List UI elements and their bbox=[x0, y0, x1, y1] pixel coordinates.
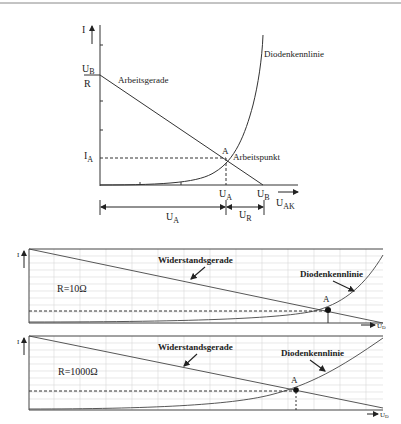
ub-tick-label: UB bbox=[257, 188, 270, 202]
diode-curve-pointer-arrow bbox=[333, 281, 354, 291]
r-label: R bbox=[84, 78, 91, 89]
y-axis-label: I bbox=[17, 338, 20, 346]
resistance-label: R=10Ω bbox=[57, 283, 87, 294]
x-axis-label: UD bbox=[380, 411, 389, 419]
load-line-label: Widerstandsgerade bbox=[158, 255, 233, 265]
operating-point-letter: A bbox=[222, 146, 229, 156]
ur-span-label: UR bbox=[239, 209, 252, 223]
ub-label: UB bbox=[82, 63, 95, 76]
diode-curve-label: Diodenkennlinie bbox=[281, 348, 344, 358]
load-line-label: Widerstandsgerade bbox=[158, 342, 233, 352]
panel-r1000: I Widerstandsgerade Diodenkennlinie A R=… bbox=[17, 336, 389, 419]
operating-point-letter: A bbox=[323, 294, 330, 304]
diode-curve bbox=[100, 35, 263, 185]
y-axis-label: I bbox=[82, 24, 85, 35]
x-axis-label: UD bbox=[377, 322, 386, 330]
y-axis-label: I bbox=[17, 251, 20, 259]
top-diagram: I UB R IA Arbeitsgerade Diodenkennlinie … bbox=[82, 24, 324, 225]
diode-curve-label: Diodenkennlinie bbox=[300, 269, 363, 279]
resistance-label: R=1000Ω bbox=[58, 366, 98, 377]
ua-span-label: UA bbox=[166, 211, 179, 225]
diode-curve-pointer-arrow bbox=[310, 360, 325, 371]
x-axis-label: UAK bbox=[276, 197, 295, 211]
diode-operating-point-figure: I UB R IA Arbeitsgerade Diodenkennlinie … bbox=[0, 0, 401, 424]
operating-point-letter: A bbox=[291, 375, 298, 385]
load-line-label: Arbeitsgerade bbox=[118, 75, 168, 85]
diode-curve-label: Diodenkennlinie bbox=[264, 49, 324, 59]
load-line bbox=[100, 75, 263, 185]
ia-label: IA bbox=[84, 150, 93, 164]
operating-point-dot bbox=[325, 307, 331, 313]
panel-r10: I Widerstandsgerade Diodenkennlinie A R=… bbox=[17, 249, 386, 330]
ua-tick-label: UA bbox=[219, 188, 232, 202]
operating-point-dot bbox=[293, 387, 299, 393]
operating-point-label: Arbeitspunkt bbox=[233, 152, 280, 162]
